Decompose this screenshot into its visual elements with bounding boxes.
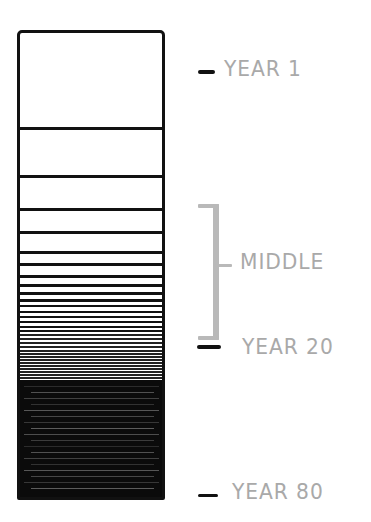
middle-label: MIDDLE bbox=[240, 249, 324, 274]
year-20-label: YEAR 20 bbox=[242, 334, 334, 359]
year-row-line bbox=[20, 356, 162, 358]
year-row-line bbox=[20, 377, 162, 379]
year-row-line bbox=[20, 321, 162, 323]
year-row-line bbox=[20, 326, 162, 328]
marker-streak bbox=[24, 470, 159, 471]
year-row-line bbox=[20, 231, 162, 234]
marker-streak bbox=[24, 446, 159, 447]
marker-streak bbox=[24, 482, 159, 483]
year-row-line bbox=[20, 251, 162, 254]
year-1-label: YEAR 1 bbox=[224, 56, 302, 81]
year-20-tick bbox=[197, 345, 221, 349]
year-row-line bbox=[20, 284, 162, 287]
year-row-line bbox=[20, 359, 162, 361]
year-row-line bbox=[20, 305, 162, 307]
year-row-line bbox=[20, 353, 162, 355]
year-row-line bbox=[20, 371, 162, 373]
year-row-line bbox=[20, 127, 162, 130]
marker-streak bbox=[24, 386, 159, 387]
year-row-line bbox=[20, 263, 162, 266]
marker-streak bbox=[31, 404, 154, 405]
life-timeline-box bbox=[17, 30, 165, 500]
year-row-line bbox=[20, 365, 162, 367]
year-row-line bbox=[20, 311, 162, 313]
year-80-label: YEAR 80 bbox=[232, 479, 324, 504]
marker-streak bbox=[31, 464, 154, 465]
year-row-line bbox=[20, 316, 162, 318]
year-row-line bbox=[20, 338, 162, 340]
year-row-line bbox=[20, 175, 162, 178]
bracket-bottom bbox=[198, 336, 219, 340]
bracket-mid-tick bbox=[215, 264, 232, 267]
year-row-line bbox=[20, 362, 162, 364]
marker-streak bbox=[31, 452, 154, 453]
year-1-tick bbox=[198, 70, 215, 74]
year-row-line bbox=[20, 330, 162, 332]
marker-streak bbox=[24, 434, 159, 435]
marker-streak bbox=[31, 392, 154, 393]
marker-streak bbox=[31, 488, 154, 489]
marker-streak bbox=[31, 416, 154, 417]
marker-streak bbox=[24, 422, 159, 423]
year-row-line bbox=[20, 350, 162, 352]
bracket-spine bbox=[213, 204, 219, 340]
marker-streak bbox=[24, 410, 159, 411]
marker-streak bbox=[31, 440, 154, 441]
marker-streak bbox=[24, 458, 159, 459]
year-row-line bbox=[20, 334, 162, 336]
year-row-line bbox=[20, 299, 162, 302]
year-row-line bbox=[20, 208, 162, 211]
year-row-line bbox=[20, 374, 162, 376]
year-row-line bbox=[20, 368, 162, 370]
year-80-tick bbox=[198, 494, 218, 497]
year-row-line bbox=[20, 346, 162, 348]
marker-streak bbox=[31, 428, 154, 429]
year-row-line bbox=[20, 275, 162, 278]
year-row-line bbox=[20, 342, 162, 344]
marker-streak bbox=[31, 476, 154, 477]
filled-remaining-years bbox=[20, 380, 162, 497]
year-row-line bbox=[20, 292, 162, 295]
marker-streak bbox=[24, 398, 159, 399]
